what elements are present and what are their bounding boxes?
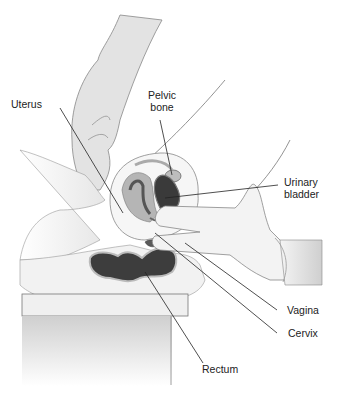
pelvic-exam-illustration: [0, 0, 339, 402]
pelvic-cavity: [110, 153, 198, 247]
label-vagina: Vagina: [287, 304, 319, 316]
rectum: [90, 248, 177, 281]
label-urinary-bladder: Urinary bladder: [284, 176, 319, 200]
label-uterus: Uterus: [11, 98, 42, 110]
exam-table: [22, 294, 188, 386]
label-cervix: Cervix: [288, 327, 318, 339]
label-rectum: Rectum: [202, 363, 238, 375]
label-pelvic-bone: Pelvic bone: [145, 89, 179, 113]
